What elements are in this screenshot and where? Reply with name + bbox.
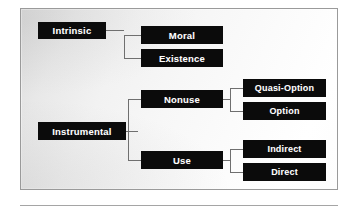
connector-intrinsic-stem: [106, 30, 124, 31]
node-intrinsic[interactable]: Intrinsic: [38, 22, 106, 39]
connector-intrinsic-existence: [124, 58, 141, 59]
connector-instrumental-bus: [128, 99, 129, 160]
node-option[interactable]: Option: [243, 102, 326, 120]
connector-intrinsic-bus: [124, 35, 125, 58]
node-existence[interactable]: Existence: [141, 49, 223, 67]
node-instrumental[interactable]: Instrumental: [38, 122, 126, 140]
node-quasi-option[interactable]: Quasi-Option: [243, 79, 326, 97]
connector-nonuse-option: [230, 111, 243, 112]
node-use[interactable]: Use: [141, 151, 223, 169]
node-direct[interactable]: Direct: [243, 163, 326, 181]
node-indirect[interactable]: Indirect: [243, 140, 326, 158]
diagram-frame: Intrinsic Instrumental Moral Existence N…: [20, 8, 338, 190]
connector-use-bus: [230, 149, 231, 172]
node-nonuse[interactable]: Nonuse: [141, 90, 223, 108]
connector-instrumental-nonuse: [128, 99, 141, 100]
node-moral[interactable]: Moral: [141, 26, 223, 44]
connector-instrumental-use: [128, 160, 141, 161]
connector-use-stem: [223, 160, 230, 161]
page-divider-rule: [20, 205, 338, 206]
connector-nonuse-quasi-option: [230, 88, 243, 89]
connector-use-indirect: [230, 149, 243, 150]
connector-nonuse-bus: [230, 88, 231, 111]
connector-intrinsic-moral: [124, 35, 141, 36]
connector-nonuse-stem: [223, 99, 230, 100]
connector-use-direct: [230, 172, 243, 173]
